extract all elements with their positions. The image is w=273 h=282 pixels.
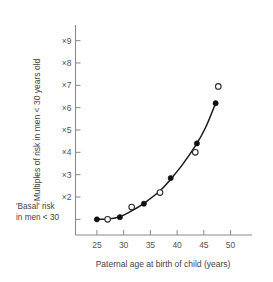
basal-risk-label-line2: in men < 30 <box>16 213 59 222</box>
data-point-filled <box>213 101 218 106</box>
x-axis-title: Paternal age at birth of child (years) <box>96 259 231 269</box>
y-tick-label: ×2 <box>62 192 72 202</box>
data-point-filled <box>94 217 99 222</box>
risk-vs-paternal-age-chart: ×2×3×4×5×6×7×8×9 253035404550 Paternal a… <box>0 0 273 282</box>
y-tick-label: ×3 <box>62 170 72 180</box>
y-tick-label: ×5 <box>62 125 72 135</box>
y-tick-label: ×9 <box>62 36 72 46</box>
data-point-filled <box>168 175 173 180</box>
data-point-open <box>193 150 199 156</box>
y-tick-label: ×8 <box>62 58 72 68</box>
data-point-filled <box>117 215 122 220</box>
x-tick-label: 30 <box>119 240 129 250</box>
y-tick-label: ×4 <box>62 147 72 157</box>
chart-canvas: ×2×3×4×5×6×7×8×9 253035404550 Paternal a… <box>0 0 273 282</box>
x-tick-label: 25 <box>92 240 102 250</box>
y-tick-label: ×7 <box>62 80 72 90</box>
x-tick-label: 50 <box>226 240 236 250</box>
y-tick-label: ×6 <box>62 103 72 113</box>
data-point-open <box>105 217 111 223</box>
x-tick-label: 35 <box>146 240 156 250</box>
data-point-open <box>129 204 135 210</box>
data-point-filled <box>141 201 146 206</box>
data-point-filled <box>194 141 199 146</box>
y-axis-title: Multiples of risk in men < 30 years old <box>32 59 42 202</box>
data-point-open <box>216 84 222 90</box>
x-tick-label: 45 <box>199 240 209 250</box>
x-tick-label: 40 <box>172 240 182 250</box>
basal-risk-label-line1: 'Basal' risk <box>16 202 56 211</box>
data-point-open <box>157 190 163 196</box>
